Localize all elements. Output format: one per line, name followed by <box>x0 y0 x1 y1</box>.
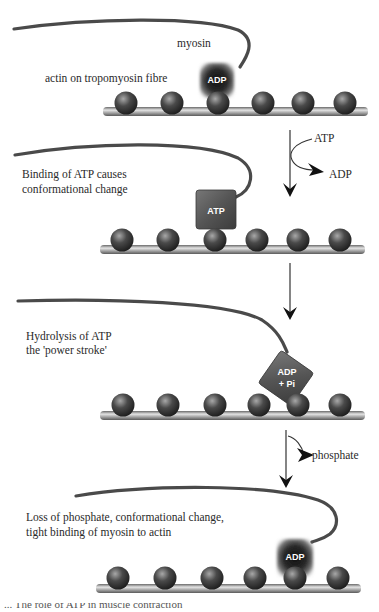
head-label-adp: ADP <box>285 552 304 562</box>
atp-in-label: ATP <box>314 132 334 144</box>
adp-out-label: ADP <box>329 168 352 180</box>
head-label-atp: ATP <box>207 206 224 216</box>
panel-phosphate-loss: Loss of phosphate, conformational change… <box>26 487 361 593</box>
actin-rod <box>100 245 365 254</box>
myosin-tail <box>14 20 249 67</box>
cross-bridge-diagram: myosin actin on tropomyosin fibre ADP AT… <box>0 0 379 612</box>
transition-arrow-1: ATP ADP <box>283 130 352 197</box>
panel-atp-binding: Binding of ATP causes conformational cha… <box>15 145 365 254</box>
head-label-pi: + Pi <box>279 379 295 389</box>
head-label-adp: ADP <box>207 75 226 85</box>
step-label-line1: Hydrolysis of ATP <box>26 330 112 343</box>
transition-arrow-3: phosphate <box>279 430 359 488</box>
head-label-adp: ADP <box>277 367 296 377</box>
actin-rod <box>96 584 361 593</box>
step-label-line2: tight binding of myosin to actin <box>26 526 172 539</box>
figure-caption: ... The role of ATP in muscle contractio… <box>0 603 379 612</box>
step-label-line1: Loss of phosphate, conformational change… <box>26 511 224 524</box>
panel-rest: myosin actin on tropomyosin fibre ADP <box>14 20 368 116</box>
panel-hydrolysis: Hydrolysis of ATP the 'power stroke' ADP… <box>18 300 365 420</box>
actin-rod <box>103 107 368 116</box>
actin-rod <box>100 411 365 420</box>
actin-label: actin on tropomyosin fibre <box>45 72 167 85</box>
step-label-line2: the 'power stroke' <box>26 344 107 357</box>
step-label-line2: conformational change <box>22 183 128 196</box>
myosin-label: myosin <box>177 37 211 50</box>
step-label-line1: Binding of ATP causes <box>22 168 127 181</box>
phosphate-out-label: phosphate <box>312 449 359 462</box>
transition-arrow-2 <box>283 263 297 320</box>
